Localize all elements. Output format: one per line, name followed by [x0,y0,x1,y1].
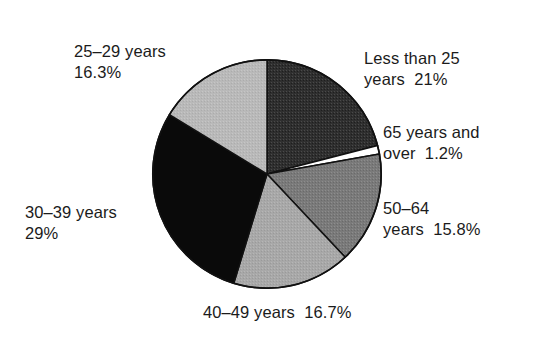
slice-label-line1: 65 years and [383,123,480,141]
slice-label-less-than-25: Less than 25 years 21% [364,48,460,91]
slice-label-40-49: 40–49 years 16.7% [203,302,352,323]
pie-svg [151,58,383,290]
slice-label-30-39: 30–39 years 29% [25,202,117,245]
pie-chart-graphic [151,58,383,290]
slice-label-line2: 16.3% [74,63,121,81]
slice-label-line1: 30–39 years [25,203,117,221]
pie-chart-figure: Less than 25 years 21% 65 years and over… [0,0,535,337]
slice-label-line2: over 1.2% [383,144,463,162]
slice-label-line2: 29% [25,224,58,242]
slice-label-line1: 40–49 years 16.7% [203,303,352,321]
slice-label-line1: Less than 25 [364,49,460,67]
slice-label-65-and-over: 65 years and over 1.2% [383,122,480,165]
slice-label-25-29: 25–29 years 16.3% [74,41,166,84]
slice-label-line2: years 21% [364,70,448,88]
slice-label-line2: years 15.8% [383,220,481,238]
slice-label-line1: 50–64 [383,199,429,217]
slice-label-line1: 25–29 years [74,42,166,60]
slice-label-50-64: 50–64 years 15.8% [383,198,481,241]
